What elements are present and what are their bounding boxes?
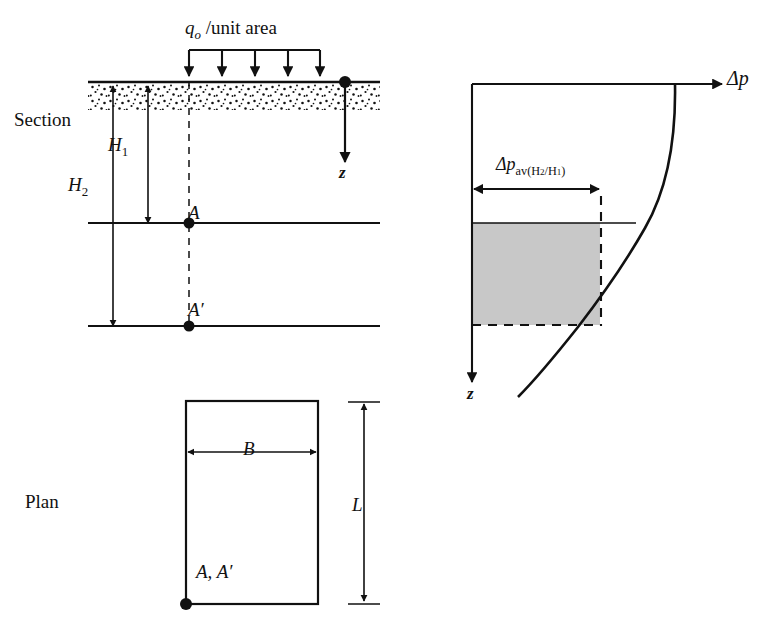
- plan-corner-dot: [180, 598, 192, 610]
- plan-view-label: Plan: [25, 492, 59, 511]
- h2-subscript: 2: [82, 184, 88, 199]
- load-suffix: /unit area: [206, 17, 277, 38]
- avg-pressure-sub-av: av(H: [516, 164, 540, 178]
- load-distribution-bar: [189, 50, 320, 76]
- h2-label: H2: [68, 175, 88, 199]
- section-view-group: [88, 50, 380, 332]
- z-axis-label-plot: z: [467, 385, 474, 402]
- point-a-label: A: [188, 203, 200, 222]
- avg-pressure-sub-paren: ): [561, 164, 565, 178]
- figure-canvas: [0, 0, 779, 627]
- plan-length-label: L: [352, 495, 363, 514]
- h1-subscript: 1: [122, 144, 128, 159]
- point-a-prime-label: A′: [188, 300, 204, 319]
- load-symbol: q: [185, 17, 195, 38]
- avg-pressure-symbol: Δp: [496, 154, 516, 174]
- plan-corner-label: A, A′: [196, 562, 233, 581]
- avg-pressure-label: Δpav(H2/H1): [496, 155, 565, 177]
- soil-stipple-band: [88, 84, 380, 110]
- point-a-prime-dot: [184, 321, 195, 332]
- avg-pressure-sub-h1: /H: [545, 164, 557, 178]
- delta-p-axis-label: Δp: [727, 68, 749, 88]
- pressure-plot-group: [472, 84, 722, 397]
- shaded-average-band: [473, 223, 600, 325]
- engineering-figure: Section Plan qo /unit area H1 H2 z A A′ …: [0, 0, 779, 627]
- load-label: qo /unit area: [185, 18, 277, 42]
- h1-label: H1: [108, 135, 128, 159]
- h1-symbol: H: [108, 134, 122, 155]
- plan-width-label: B: [243, 439, 255, 458]
- section-view-label: Section: [14, 110, 71, 129]
- h2-symbol: H: [68, 174, 82, 195]
- z-axis-label-section: z: [339, 164, 346, 181]
